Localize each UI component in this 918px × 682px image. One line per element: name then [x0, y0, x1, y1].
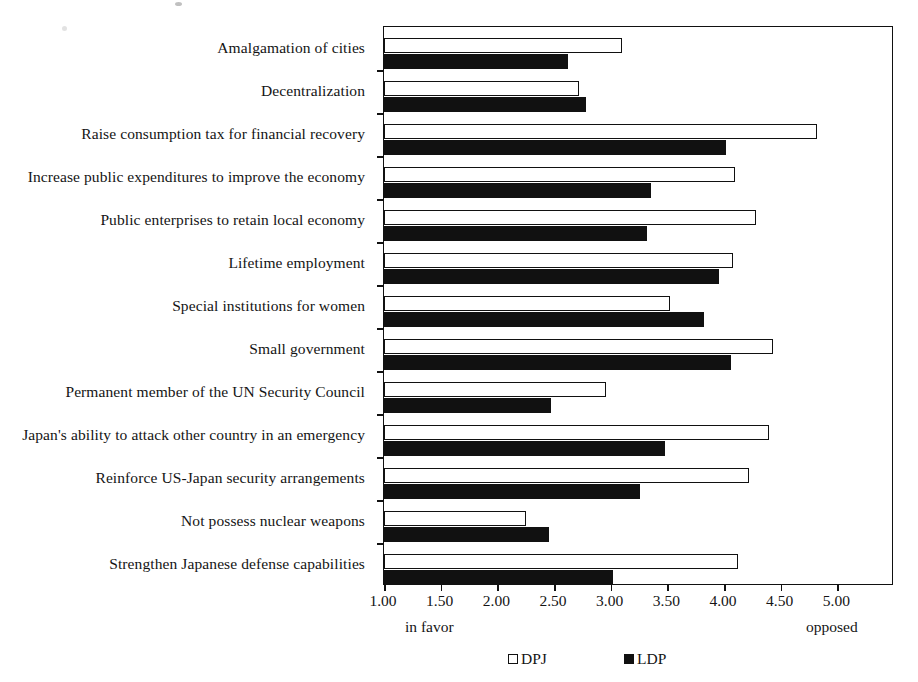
category-label: Japan's ability to attack other country …: [0, 427, 365, 443]
x-axis-tick-label: 3.00: [596, 592, 623, 610]
chart-legend: DPJ LDP: [508, 650, 748, 672]
bar-dpj: [384, 296, 670, 311]
legend-label: LDP: [637, 650, 666, 668]
x-axis-tick-label: 3.50: [653, 592, 680, 610]
y-axis-tick: [377, 414, 384, 416]
bar-dpj: [384, 554, 738, 569]
category-label: Lifetime employment: [0, 255, 365, 271]
bar-group: [384, 156, 892, 199]
bar-ldp: [384, 527, 549, 542]
bar-group: [384, 199, 892, 242]
bar-ldp: [384, 570, 613, 585]
x-axis-tick: [611, 584, 613, 591]
category-label: Raise consumption tax for financial reco…: [0, 126, 365, 142]
x-axis-tick: [724, 584, 726, 591]
bar-ldp: [384, 269, 719, 284]
bar-chart-figure: Amalgamation of citiesDecentralizationRa…: [0, 0, 918, 682]
scan-artifact-speck: [175, 2, 182, 6]
category-label: Amalgamation of cities: [0, 40, 365, 56]
category-label: Increase public expenditures to improve …: [0, 169, 365, 185]
bar-dpj: [384, 124, 817, 139]
category-axis-labels: Amalgamation of citiesDecentralizationRa…: [0, 26, 374, 585]
bar-group: [384, 242, 892, 285]
x-axis-tick-label: 2.00: [483, 592, 510, 610]
y-axis-tick: [377, 543, 384, 545]
bar-group: [384, 27, 892, 70]
bar-ldp: [384, 441, 665, 456]
x-axis-tick-label: 1.00: [369, 592, 396, 610]
bar-ldp: [384, 183, 651, 198]
category-label: Special institutions for women: [0, 298, 365, 314]
x-axis-tick-label: 4.50: [766, 592, 793, 610]
y-axis-tick: [377, 328, 384, 330]
x-axis-tick: [497, 584, 499, 591]
category-label: Public enterprises to retain local econo…: [0, 212, 365, 228]
x-axis-tick-label: 5.00: [823, 592, 850, 610]
bar-dpj: [384, 511, 526, 526]
legend-item-ldp: LDP: [624, 650, 666, 668]
bar-dpj: [384, 425, 769, 440]
y-axis-tick: [377, 199, 384, 201]
y-axis-tick: [377, 156, 384, 158]
bar-dpj: [384, 167, 735, 182]
x-axis-tick-labels: 1.001.502.002.503.003.504.004.505.00: [383, 592, 893, 614]
x-axis-tick: [837, 584, 839, 591]
bar-dpj: [384, 339, 773, 354]
x-axis-tick: [554, 584, 556, 591]
axis-caption-in-favor: in favor: [405, 618, 454, 636]
legend-label: DPJ: [521, 650, 547, 668]
bar-group: [384, 414, 892, 457]
bar-ldp: [384, 54, 568, 69]
bar-dpj: [384, 468, 749, 483]
category-label: Reinforce US-Japan security arrangements: [0, 470, 365, 486]
bar-group: [384, 113, 892, 156]
y-axis-tick: [377, 113, 384, 115]
filled-square-icon: [624, 654, 634, 664]
bar-group: [384, 70, 892, 113]
bar-group: [384, 371, 892, 414]
category-label: Not possess nuclear weapons: [0, 513, 365, 529]
bar-group: [384, 285, 892, 328]
x-axis-tick: [781, 584, 783, 591]
bar-group: [384, 328, 892, 371]
bar-group: [384, 500, 892, 543]
bar-ldp: [384, 97, 586, 112]
x-axis-tick-label: 1.50: [426, 592, 453, 610]
x-axis-tick-label: 2.50: [539, 592, 566, 610]
y-axis-tick: [377, 285, 384, 287]
bar-ldp: [384, 355, 731, 370]
bar-group: [384, 457, 892, 500]
category-label: Strengthen Japanese defense capabilities: [0, 556, 365, 572]
axis-caption-opposed: opposed: [806, 618, 858, 636]
bar-ldp: [384, 140, 726, 155]
x-axis-tick: [441, 584, 443, 591]
bar-ldp: [384, 484, 640, 499]
bar-dpj: [384, 38, 622, 53]
bar-dpj: [384, 253, 733, 268]
category-label: Decentralization: [0, 83, 365, 99]
bar-ldp: [384, 398, 551, 413]
bar-ldp: [384, 312, 704, 327]
open-square-icon: [508, 654, 518, 664]
bar-dpj: [384, 210, 756, 225]
category-label: Permanent member of the UN Security Coun…: [0, 384, 365, 400]
bar-group: [384, 543, 892, 586]
bar-ldp: [384, 226, 647, 241]
x-axis-tick-label: 4.00: [709, 592, 736, 610]
category-label: Small government: [0, 341, 365, 357]
y-axis-tick: [377, 457, 384, 459]
y-axis-tick: [377, 371, 384, 373]
plot-area: [383, 26, 893, 585]
bar-dpj: [384, 81, 579, 96]
y-axis-tick: [377, 70, 384, 72]
legend-item-dpj: DPJ: [508, 650, 547, 668]
x-axis-tick: [667, 584, 669, 591]
y-axis-tick: [377, 242, 384, 244]
bar-dpj: [384, 382, 606, 397]
x-axis-tick: [384, 584, 386, 591]
y-axis-tick: [377, 500, 384, 502]
